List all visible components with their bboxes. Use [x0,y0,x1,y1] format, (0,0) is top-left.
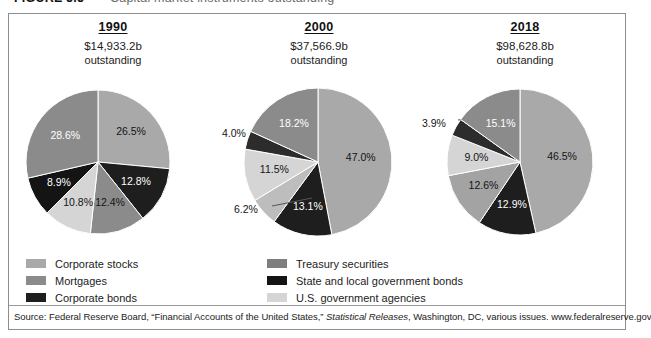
pie-label-1990-26.5: 26.5% [116,125,146,137]
pie-label-2018-12.6: 12.6% [469,179,499,191]
legend-label-corporate-stocks: Corporate stocks [55,258,138,270]
chart-amount-note-2018: outstanding [422,54,628,66]
legend-swatch-us-government-agencies [267,293,287,302]
figure-number: FIGURE 5.5 [14,0,84,5]
pie-label-2018-12.9: 12.9% [497,198,527,210]
pie-label-1990-8.9: 8.9% [47,176,71,188]
pie-label-2000-6.2: 6.2% [234,203,258,215]
chart-year-2000: 2000 [216,20,422,34]
pie-label-2018-15.1: 15.1% [486,117,516,129]
chart-amount-note-2000: outstanding [216,54,422,66]
legend-label-us-government-agencies: U.S. government agencies [296,292,426,304]
pie-label-2000-11.5: 11.5% [260,163,289,175]
figure-title: Capital market instruments outstanding [84,0,334,5]
pie-label-2000-47.0: 47.0% [346,151,376,163]
pie-svg-2000: 47.0%13.1%6.2%11.5%4.0%18.2% [216,78,422,246]
chart-year-1990: 1990 [10,20,216,34]
pie-chart-1990: 26.5%12.8%12.4%10.8%8.9%28.6% [10,78,216,246]
pie-label-2000-4.0: 4.0% [222,127,246,139]
chart-amount-note-1990: outstanding [10,54,216,66]
legend-item-mortgages: Mortgages [26,273,138,288]
chart-amount-2018: $98,628.8b [422,40,628,52]
legend-label-treasury-securities: Treasury securities [296,258,389,270]
legend-item-corporate-stocks: Corporate stocks [26,256,138,271]
legend-item-treasury-securities: Treasury securities [267,256,463,271]
source-suffix: , Washington, DC, various issues. www.fe… [408,311,651,322]
chart-amount-1990: $14,933.2b [10,40,216,52]
pie-chart-2000: 47.0%13.1%6.2%11.5%4.0%18.2% [216,78,422,246]
legend-item-us-government-agencies: U.S. government agencies [267,290,463,305]
legend-label-mortgages: Mortgages [55,275,107,287]
source-prefix: Source: Federal Reserve Board, “Financia… [14,311,326,322]
pie-svg-2018: 46.5%12.9%12.6%9.0%3.9%15.1% [422,78,628,246]
source-italic: Statistical Releases [326,311,408,322]
legend-swatch-corporate-stocks [26,259,46,268]
pie-svg-1990: 26.5%12.8%12.4%10.8%8.9%28.6% [10,78,216,246]
source-note: Source: Federal Reserve Board, “Financia… [14,311,626,322]
legend-label-corporate-bonds: Corporate bonds [55,292,137,304]
pie-label-1990-12.8: 12.8% [121,175,151,187]
pie-label-1990-12.4: 12.4% [95,196,125,208]
pie-label-1990-28.6: 28.6% [50,129,80,141]
legend-right: Treasury securities State and local gove… [267,256,463,307]
legend-swatch-corporate-bonds [26,293,46,302]
pie-label-2018-9.0: 9.0% [464,151,488,163]
pie-label-2018-46.5: 46.5% [547,150,577,162]
chart-year-2018: 2018 [422,20,628,34]
legend-item-corporate-bonds: Corporate bonds [26,290,138,305]
figure-caption: FIGURE 5.5Capital market instruments out… [14,0,614,5]
chart-header-2018: 2018 $98,628.8b outstanding [422,20,628,66]
pie-label-2018-3.9: 3.9% [422,117,446,129]
source-divider [9,305,625,306]
legend-swatch-mortgages [26,276,46,285]
pie-label-2000-18.2: 18.2% [279,117,309,129]
chart-header-1990: 1990 $14,933.2b outstanding [10,20,216,66]
chart-amount-2000: $37,566.9b [216,40,422,52]
legend-label-state-local-bonds: State and local government bonds [296,275,463,287]
legend-swatch-state-local-bonds [267,276,287,285]
pie-chart-2018: 46.5%12.9%12.6%9.0%3.9%15.1% [422,78,628,246]
legend-swatch-treasury-securities [267,259,287,268]
pie-label-1990-10.8: 10.8% [63,196,93,208]
legend-item-state-local-bonds: State and local government bonds [267,273,463,288]
legend-left: Corporate stocks Mortgages Corporate bon… [26,256,138,307]
chart-header-2000: 2000 $37,566.9b outstanding [216,20,422,66]
